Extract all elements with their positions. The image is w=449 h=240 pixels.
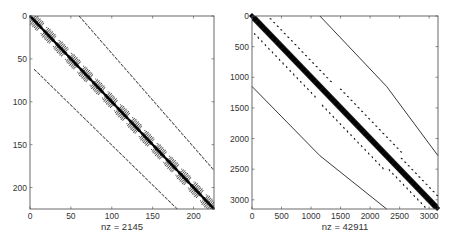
y-tick-label: 100 [13, 97, 27, 107]
x-tick-label: 500 [274, 211, 288, 221]
x-tick-label: 2500 [390, 211, 409, 221]
y-tick-label: 1500 [230, 103, 249, 113]
x-axis-label: nz = 2145 [101, 221, 143, 232]
x-tick-label: 50 [66, 211, 76, 221]
y-tick-label: 1000 [230, 72, 249, 82]
plot-content [29, 15, 214, 209]
x-tick-label: 1000 [302, 211, 321, 221]
spy-plot-right: 0500100015002000250030000500100015002000… [224, 0, 449, 240]
x-tick-label: 100 [105, 211, 119, 221]
axes: 0500100015002000250030000500100015002000… [230, 11, 439, 232]
x-tick-label: 3000 [420, 211, 439, 221]
x-tick-label: 2000 [361, 211, 380, 221]
plot-content [249, 13, 440, 211]
y-tick-label: 50 [18, 54, 28, 64]
x-tick-label: 1500 [331, 211, 350, 221]
y-tick-label: 150 [13, 140, 27, 150]
x-axis-label: nz = 42911 [322, 221, 369, 232]
y-tick-label: 0 [244, 11, 249, 21]
x-tick-label: 150 [146, 211, 160, 221]
y-tick-label: 0 [22, 11, 27, 21]
spy-plot-left: 050100150200050100150200nz = 2145 [0, 0, 224, 240]
axes: 050100150200050100150200nz = 2145 [13, 11, 214, 232]
y-tick-label: 500 [235, 42, 249, 52]
y-tick-label: 2000 [230, 134, 249, 144]
y-tick-label: 2500 [230, 164, 249, 174]
x-tick-label: 200 [186, 211, 200, 221]
y-tick-label: 200 [13, 183, 27, 193]
y-tick-label: 3000 [230, 195, 249, 205]
x-tick-label: 0 [28, 211, 33, 221]
x-tick-label: 0 [250, 211, 255, 221]
